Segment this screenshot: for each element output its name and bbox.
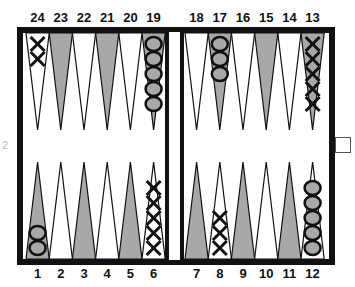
checker-o[interactable]	[212, 67, 228, 81]
checker-o[interactable]	[305, 211, 321, 225]
bar[interactable]	[167, 30, 182, 262]
checker-o[interactable]	[30, 241, 46, 255]
checker-o[interactable]	[146, 82, 162, 96]
checker-o[interactable]	[305, 196, 321, 210]
checker-o[interactable]	[146, 97, 162, 111]
checker-o[interactable]	[146, 52, 162, 66]
checker-o[interactable]	[305, 181, 321, 195]
checker-o[interactable]	[146, 67, 162, 81]
backgammon-board[interactable]	[0, 0, 355, 287]
checker-o[interactable]	[146, 37, 162, 51]
checker-o[interactable]	[305, 241, 321, 255]
checker-o[interactable]	[212, 37, 228, 51]
checker-o[interactable]	[212, 52, 228, 66]
checker-o[interactable]	[30, 226, 46, 240]
checker-o[interactable]	[305, 226, 321, 240]
